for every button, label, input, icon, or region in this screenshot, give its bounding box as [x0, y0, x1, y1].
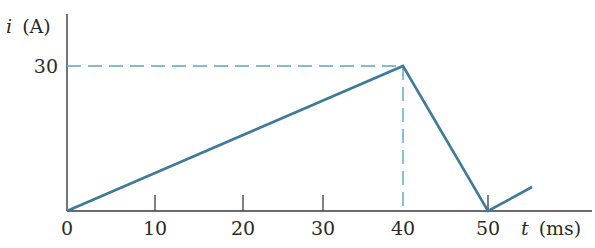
current-waveform-chart: i (A) 30 0 10 20 30 40 50 t (ms)	[0, 0, 595, 248]
x-tick-label-40: 40	[391, 217, 415, 239]
x-tick-label-50: 50	[476, 217, 500, 239]
x-tick-label-30: 30	[311, 217, 335, 239]
x-tick-label-10: 10	[143, 217, 167, 239]
y-axis-label: i (A)	[6, 15, 51, 37]
y-tick-label-30: 30	[34, 55, 58, 77]
x-axis-label: t (ms)	[521, 217, 581, 239]
current-waveform-line	[67, 66, 532, 211]
x-ticks	[155, 195, 488, 211]
x-tick-label-0: 0	[61, 217, 73, 239]
x-tick-label-20: 20	[231, 217, 255, 239]
